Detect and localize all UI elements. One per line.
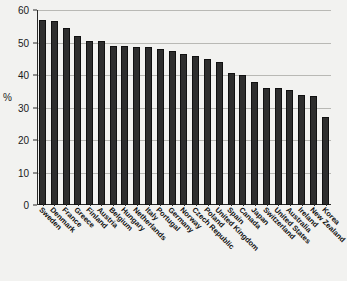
bar xyxy=(228,73,235,205)
bar xyxy=(133,47,140,205)
bar xyxy=(98,41,105,205)
bar xyxy=(310,96,317,205)
y-tick-label: 10 xyxy=(0,167,33,178)
bar xyxy=(63,28,70,205)
y-tick-label: 50 xyxy=(0,37,33,48)
bar xyxy=(286,90,293,205)
bar xyxy=(216,62,223,205)
bar xyxy=(298,95,305,206)
bar xyxy=(275,88,282,205)
y-tick-label: 30 xyxy=(0,102,33,113)
bar xyxy=(121,46,128,205)
bar xyxy=(192,56,199,206)
plot-area xyxy=(37,10,331,205)
y-tick-label: 40 xyxy=(0,70,33,81)
y-tick-label: 60 xyxy=(0,5,33,16)
bar xyxy=(169,51,176,205)
bar xyxy=(322,117,329,205)
y-tick-label: 20 xyxy=(0,135,33,146)
bar xyxy=(51,21,58,205)
bar xyxy=(86,41,93,205)
bar xyxy=(239,75,246,205)
bar xyxy=(110,46,117,205)
bar xyxy=(145,47,152,205)
bar-series xyxy=(37,10,331,205)
bar xyxy=(263,88,270,205)
bar xyxy=(180,54,187,205)
bar xyxy=(39,20,46,205)
bar xyxy=(74,36,81,205)
bar xyxy=(251,82,258,206)
x-axis-tick-labels: SwedenDenmarkFranceGreeceFinlandAustriaB… xyxy=(37,206,331,281)
y-tick-label: 0 xyxy=(0,200,33,211)
y-axis-tick-labels: 0102030405060 xyxy=(0,0,33,281)
bar xyxy=(204,59,211,205)
bar xyxy=(157,49,164,205)
